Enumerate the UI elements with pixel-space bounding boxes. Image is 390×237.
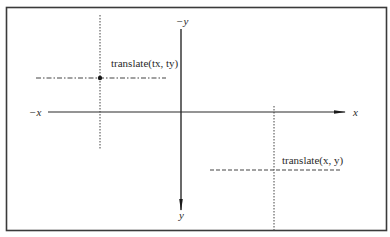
x-positive-label: x bbox=[352, 106, 358, 118]
diagram-frame bbox=[7, 8, 387, 231]
y-positive-label: y bbox=[178, 209, 184, 221]
y-negative-label: −y bbox=[176, 15, 188, 27]
x-negative-label: −x bbox=[29, 106, 41, 118]
tx-ty-point bbox=[98, 76, 102, 80]
coordinate-diagram: −x x −y y translate(tx, ty) translate(x,… bbox=[0, 0, 390, 237]
diagram-canvas: −x x −y y translate(tx, ty) translate(x,… bbox=[0, 0, 390, 237]
translate-x-y-label: translate(x, y) bbox=[282, 154, 343, 167]
translate-tx-ty-label: translate(tx, ty) bbox=[111, 57, 179, 70]
